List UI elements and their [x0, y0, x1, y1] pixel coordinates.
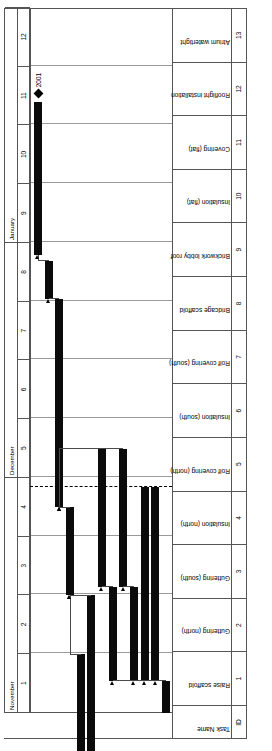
task-name-text: Guttering (north)	[182, 628, 230, 635]
task-column-4[interactable]: Insulation (north)4	[172, 491, 247, 545]
task-name-cell: Insulation (north)	[174, 492, 232, 545]
week-cell-3: 3	[17, 536, 30, 595]
dependency-arrow	[142, 681, 146, 685]
task-id-cell: 5	[232, 438, 245, 491]
gantt-bar[interactable]	[109, 587, 117, 681]
milestone-label: 2001	[35, 73, 42, 87]
task-name-cell: Rooflight installation	[174, 63, 232, 116]
gantt-bar[interactable]	[77, 654, 85, 751]
gantt-bar[interactable]	[87, 596, 95, 751]
dependency-arrow	[57, 507, 61, 511]
week-cell-5: 5	[17, 418, 30, 477]
gantt-bar[interactable]	[98, 449, 106, 587]
dependency-arrow	[110, 681, 114, 685]
week-label: 6	[20, 388, 27, 392]
gantt-bar[interactable]	[141, 487, 149, 681]
gantt-bar[interactable]	[66, 507, 74, 595]
dependency-link	[70, 654, 81, 655]
dependency-arrow	[121, 587, 125, 591]
dependency-arrow	[67, 596, 71, 600]
week-cell-10: 10	[17, 125, 30, 184]
task-column-10[interactable]: Insulation (flat)10	[172, 169, 247, 223]
week-cell-8: 8	[17, 242, 30, 301]
week-cell-4: 4	[17, 477, 30, 536]
gantt-bar[interactable]	[45, 261, 53, 299]
week-cell-9: 9	[17, 183, 30, 242]
task-id-cell: 11	[232, 116, 245, 169]
week-axis: 123456789101112	[17, 8, 30, 713]
task-id-cell: 9	[232, 223, 245, 276]
dependency-arrow	[131, 681, 135, 685]
task-name-text: Covering (flat)	[189, 146, 230, 153]
gantt-bar[interactable]	[151, 487, 159, 681]
dependency-arrow	[99, 587, 103, 591]
task-name-text: Task Name	[197, 726, 230, 733]
dependency-link	[59, 448, 102, 449]
task-name-cell: Guttering (south)	[174, 545, 232, 598]
task-id-cell: ID	[232, 706, 245, 739]
task-name-text: Guttering (south)	[181, 575, 230, 582]
task-column-2[interactable]: Guttering (north)2	[172, 598, 247, 652]
dependency-arrow	[46, 299, 50, 303]
dependency-link	[38, 260, 49, 261]
task-column-11[interactable]: Covering (flat)11	[172, 115, 247, 169]
week-label: 7	[20, 329, 27, 333]
gantt-bar[interactable]	[130, 587, 138, 681]
week-cell-2: 2	[17, 595, 30, 654]
dependency-link	[70, 595, 91, 596]
task-column-9[interactable]: Brickwork lobby roof9	[172, 222, 247, 276]
task-name-cell: Rolf covering (north)	[174, 438, 232, 491]
task-id-cell: 6	[232, 384, 245, 437]
task-id-cell: 10	[232, 170, 245, 223]
task-id-cell: 13	[232, 9, 245, 62]
month-label: January	[8, 218, 15, 240]
task-name-cell: Rolf covering (south)	[174, 331, 232, 384]
task-name-text: Insulation (south)	[179, 414, 230, 421]
task-column-1[interactable]: Raise scaffold1	[172, 651, 247, 705]
week-label: 9	[20, 211, 27, 215]
task-column-3[interactable]: Guttering (south)3	[172, 544, 247, 598]
week-label: 4	[20, 505, 27, 509]
gantt-bar[interactable]	[119, 449, 127, 587]
task-id-cell: 1	[232, 652, 245, 705]
task-name-cell: Atrium watertight	[174, 9, 232, 62]
gridline	[31, 182, 172, 183]
dependency-link	[102, 586, 113, 587]
dependency-link	[123, 586, 134, 587]
week-label: 11	[20, 92, 27, 99]
week-cell-1: 1	[17, 653, 30, 712]
week-label: 8	[20, 270, 27, 274]
month-label: December	[8, 446, 15, 475]
dependency-arrow	[35, 255, 39, 259]
task-column-6[interactable]: Insulation (south)6	[172, 383, 247, 437]
task-id-cell: 2	[232, 599, 245, 652]
table-header-column[interactable]: Task NameID	[172, 705, 247, 739]
task-id-cell: 3	[232, 545, 245, 598]
task-name-cell: Guttering (north)	[174, 599, 232, 652]
task-name-cell: Bridcage scaffold	[174, 277, 232, 330]
task-column-5[interactable]: Rolf covering (north)5	[172, 437, 247, 491]
gantt-chart: NovemberDecemberJanuary 123456789101112 …	[4, 8, 247, 739]
task-name-text: Rolf covering (north)	[170, 468, 230, 475]
task-id-cell: 12	[232, 63, 245, 116]
gridline	[31, 124, 172, 125]
task-name-cell: Raise scaffold	[174, 652, 232, 705]
task-name-text: Brickwork lobby roof	[171, 253, 230, 260]
task-name-text: Rolf covering (south)	[169, 360, 230, 367]
task-column-12[interactable]: Rooflight installation12	[172, 62, 247, 116]
task-column-8[interactable]: Bridcage scaffold8	[172, 276, 247, 330]
gantt-bar[interactable]	[34, 102, 42, 255]
timeline-area: NovemberDecemberJanuary 123456789101112 …	[4, 8, 172, 739]
week-label: 5	[20, 446, 27, 450]
gridline	[31, 300, 172, 301]
gantt-bar[interactable]	[162, 681, 170, 713]
task-name-cell: Insulation (south)	[174, 384, 232, 437]
week-cell-12: 12	[17, 7, 30, 66]
dependency-link	[113, 680, 166, 681]
task-column-7[interactable]: Rolf covering (south)7	[172, 330, 247, 384]
task-column-13[interactable]: Atrium watertight13	[172, 8, 247, 62]
gridline	[31, 417, 172, 418]
task-name-text: Insulation (north)	[181, 521, 230, 528]
task-name-text: Atrium watertight	[181, 39, 230, 46]
task-name-cell: Covering (flat)	[174, 116, 232, 169]
